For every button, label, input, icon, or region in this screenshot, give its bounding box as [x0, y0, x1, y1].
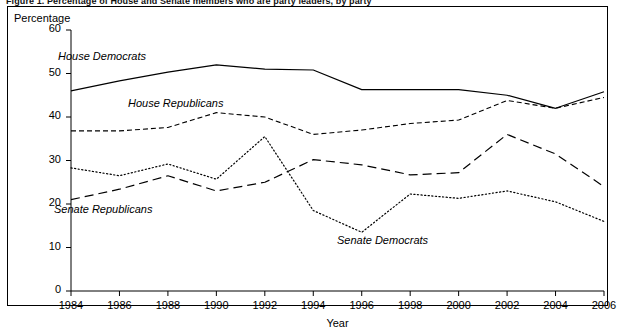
series-label-house-democrats: House Democrats: [58, 50, 146, 62]
series-label-senate-republicans: Senate Republicans: [54, 203, 152, 215]
x-tick-label: 2002: [487, 299, 527, 311]
x-tick-label: 1990: [196, 299, 236, 311]
x-tick-label: 2004: [536, 299, 576, 311]
x-tick-label: 1986: [99, 299, 139, 311]
series-label-house-republicans: House Republicans: [128, 97, 223, 109]
series-label-senate-democrats: Senate Democrats: [337, 234, 428, 246]
y-tick-label: 60: [35, 22, 61, 34]
y-tick-label: 50: [35, 66, 61, 78]
y-tick-label: 0: [35, 283, 61, 295]
x-tick-label: 2006: [584, 299, 621, 311]
x-tick-label: 1984: [51, 299, 91, 311]
y-tick-label: 10: [35, 240, 61, 252]
x-tick-label: 2000: [439, 299, 479, 311]
x-tick-label: 1998: [390, 299, 430, 311]
x-tick-label: 1988: [148, 299, 188, 311]
y-tick-label: 40: [35, 109, 61, 121]
y-tick-label: 30: [35, 153, 61, 165]
x-tick-label: 1994: [293, 299, 333, 311]
x-axis-title: Year: [298, 317, 378, 329]
x-tick-label: 1992: [245, 299, 285, 311]
x-tick-label: 1996: [342, 299, 382, 311]
